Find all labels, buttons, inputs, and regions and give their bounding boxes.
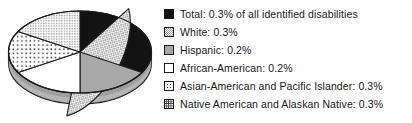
chart-legend: Total: 0.3% of all identified disabiliti… (164, 5, 410, 119)
legend-item-african-american: African-American: 0.2% (164, 59, 410, 77)
legend-swatch-total-icon (164, 9, 174, 19)
legend-item-native-american: Native American and Alaskan Native: 0.3% (164, 95, 410, 113)
legend-label-total: Total: 0.3% of all identified disabiliti… (180, 8, 358, 20)
legend-swatch-asian-american-icon (164, 81, 174, 91)
legend-swatch-african-american-icon (164, 63, 174, 73)
legend-label-native-american: Native American and Alaskan Native: 0.3% (180, 98, 383, 110)
legend-swatch-hispanic-icon (164, 45, 174, 55)
legend-label-african-american: African-American: 0.2% (180, 62, 293, 74)
legend-label-white: White: 0.3% (180, 26, 238, 38)
legend-label-asian-american: Asian-American and Pacific Islander: 0.3… (180, 80, 383, 92)
legend-item-hispanic: Hispanic: 0.2% (164, 41, 410, 59)
pie-slices (8, 2, 151, 121)
legend-item-total: Total: 0.3% of all identified disabiliti… (164, 5, 410, 23)
legend-item-asian-american: Asian-American and Pacific Islander: 0.3… (164, 77, 410, 95)
legend-swatch-native-american-icon (164, 99, 174, 109)
pie-chart-figure: Total: 0.3% of all identified disabiliti… (0, 0, 412, 123)
legend-swatch-white-icon (164, 27, 174, 37)
pie-svg (4, 2, 160, 121)
legend-label-hispanic: Hispanic: 0.2% (180, 44, 252, 56)
pie-chart-graphic (4, 2, 160, 121)
legend-item-white: White: 0.3% (164, 23, 410, 41)
